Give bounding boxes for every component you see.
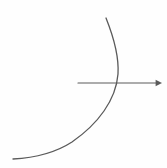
figure-svg	[0, 0, 167, 168]
diagram-canvas	[0, 0, 167, 168]
canvas-background	[0, 0, 167, 168]
